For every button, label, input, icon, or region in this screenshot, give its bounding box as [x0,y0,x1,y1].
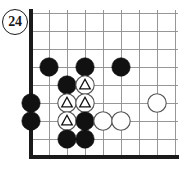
stone-black[interactable] [76,112,94,130]
stone-disc [58,76,76,94]
stone-black[interactable] [58,130,76,148]
stone-black[interactable] [76,130,94,148]
stone-disc [22,112,40,130]
go-board[interactable] [0,0,196,184]
stone-black[interactable] [22,94,40,112]
stone-white-marked[interactable] [76,94,94,112]
stone-disc [112,58,130,76]
stone-disc [22,94,40,112]
stone-disc [58,130,76,148]
stone-disc [76,130,94,148]
stone-white-marked[interactable] [58,112,76,130]
stone-black[interactable] [58,76,76,94]
stone-disc [148,94,166,112]
stone-black[interactable] [112,58,130,76]
stone-disc [40,58,58,76]
stone-disc [112,112,130,130]
go-diagram-root: 24 [0,0,196,184]
stone-black[interactable] [40,58,58,76]
stone-white-marked[interactable] [76,76,94,94]
stone-white-marked[interactable] [58,94,76,112]
stone-white[interactable] [148,94,166,112]
stone-white[interactable] [94,112,112,130]
stone-disc [76,58,94,76]
move-number-text: 24 [8,15,21,29]
move-number-badge: 24 [2,9,28,35]
stone-disc [76,112,94,130]
stone-black[interactable] [22,112,40,130]
go-board-canvas[interactable] [0,0,196,184]
stone-white[interactable] [112,112,130,130]
stone-black[interactable] [76,58,94,76]
stone-disc [94,112,112,130]
